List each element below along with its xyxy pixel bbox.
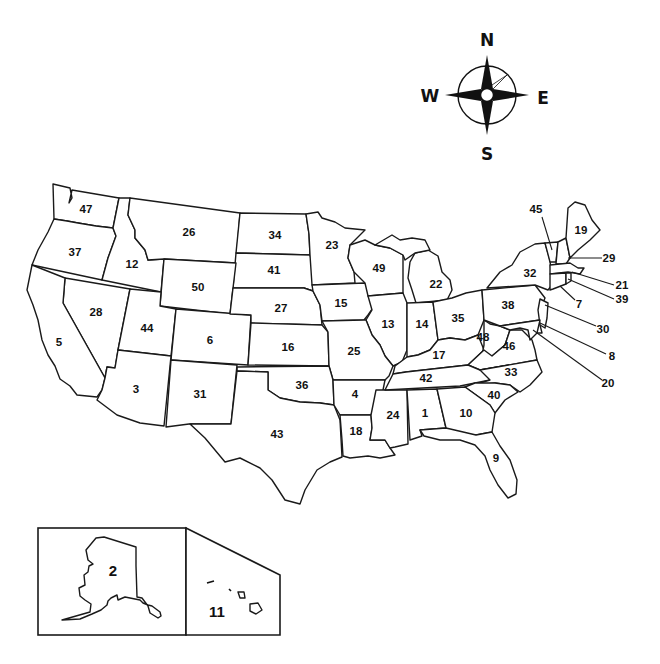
state-label-5: 5 [56,336,63,348]
state-label-12: 12 [126,258,139,270]
state-label-10: 10 [460,407,473,419]
state-label-16: 16 [282,341,295,353]
compass-east-label: E [537,88,549,108]
state-label-20: 20 [602,377,615,389]
compass-west-label: W [421,86,440,106]
state-label-24: 24 [387,409,400,421]
state-label-48: 48 [477,331,490,343]
state-label-47: 47 [80,203,93,215]
state-label-32: 32 [524,267,537,279]
state-label-38: 38 [502,299,515,311]
state-label-28: 28 [90,306,103,318]
state-label-23: 23 [326,239,339,251]
state-label-2: 2 [109,562,117,579]
state-label-15: 15 [335,297,348,309]
hawaii-island-maui[interactable] [238,592,245,598]
state-label-41: 41 [268,264,281,276]
state-label-50: 50 [192,281,205,293]
state-label-7: 7 [576,298,582,310]
state-label-44: 44 [141,322,154,334]
state-label-36: 36 [296,379,309,391]
state-label-30: 30 [597,323,610,335]
state-label-18: 18 [350,425,363,437]
compass-north-label: N [480,30,494,50]
state-label-4: 4 [352,388,359,400]
alaska-inset: 2 [38,528,186,635]
state-label-21: 21 [616,279,629,291]
hawaii-inset: 11 [186,528,280,635]
state-label-11: 11 [209,603,225,620]
state-label-19: 19 [575,224,588,236]
state-label-45: 45 [530,203,543,215]
state-label-14: 14 [416,318,429,330]
compass-rose: N S W E [421,30,549,164]
state-label-40: 40 [488,389,501,401]
state-label-25: 25 [348,345,361,357]
state-label-49: 49 [373,262,386,274]
state-32[interactable] [487,243,552,290]
state-label-29: 29 [603,252,616,264]
state-label-27: 27 [275,302,288,314]
us-map: N S W E [0,0,660,664]
state-label-3: 3 [133,383,139,395]
state-label-17: 17 [433,349,446,361]
state-9[interactable] [420,428,517,498]
state-label-1: 1 [422,407,429,419]
state-label-13: 13 [382,318,395,330]
state-label-8: 8 [609,350,616,362]
state-7[interactable] [550,273,566,290]
state-22[interactable] [408,250,452,303]
state-label-42: 42 [420,372,433,384]
state-39[interactable] [566,273,571,284]
state-label-31: 31 [194,388,207,400]
state-label-34: 34 [269,229,282,241]
state-label-35: 35 [452,312,465,324]
state-label-37: 37 [69,246,82,258]
state-label-46: 46 [503,340,516,352]
state-label-43: 43 [271,428,284,440]
compass-south-label: S [481,144,493,164]
state-label-33: 33 [505,366,518,378]
state-label-6: 6 [207,334,213,346]
state-label-39: 39 [616,293,629,305]
state-label-26: 26 [183,226,196,238]
state-label-9: 9 [493,452,499,464]
state-label-22: 22 [430,278,443,290]
